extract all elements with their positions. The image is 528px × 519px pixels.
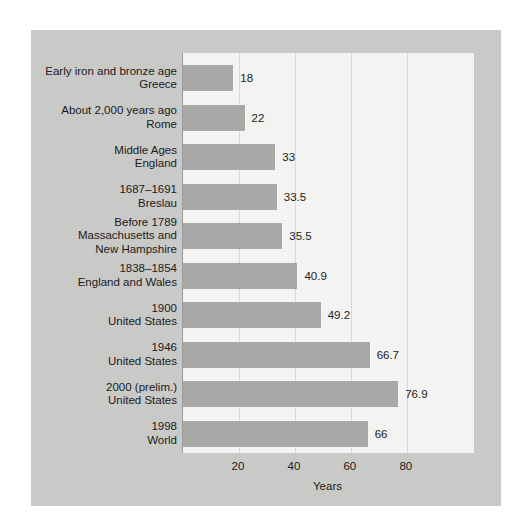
- category-label: 1838–1854England and Wales: [78, 262, 177, 289]
- category-label-line: United States: [108, 355, 177, 369]
- bar-value-label: 22: [252, 112, 265, 124]
- category-label: 1946United States: [108, 341, 177, 368]
- bar-value-label: 35.5: [289, 230, 311, 242]
- bar-value-label: 66.7: [377, 349, 399, 361]
- category-label-line: England: [114, 157, 177, 171]
- category-label: 2000 (prelim.)United States: [106, 381, 177, 408]
- x-tick-label: 20: [232, 460, 245, 472]
- bar[interactable]: [183, 223, 282, 249]
- category-label-line: Rome: [61, 118, 177, 132]
- bar-value-label: 66: [375, 428, 388, 440]
- bar-row: 33: [183, 144, 474, 170]
- bar[interactable]: [183, 342, 370, 368]
- bar-row: 76.9: [183, 381, 474, 407]
- x-tick-label: 80: [399, 460, 412, 472]
- bar[interactable]: [183, 144, 275, 170]
- category-label-line: 2000 (prelim.): [106, 381, 177, 395]
- category-label-line: Middle Ages: [114, 144, 177, 158]
- category-label-line: Early iron and bronze age: [45, 65, 177, 79]
- bar-value-label: 76.9: [405, 388, 427, 400]
- x-axis-title: Years: [182, 480, 473, 492]
- category-label-line: Before 1789: [78, 216, 177, 230]
- category-label: 1998World: [147, 420, 177, 447]
- figure-panel: 18223333.535.540.949.266.776.966 Years E…: [31, 30, 501, 506]
- bar-value-label: 33.5: [284, 191, 306, 203]
- bar[interactable]: [183, 302, 321, 328]
- category-label: Early iron and bronze ageGreece: [45, 65, 177, 92]
- bar-row: 18: [183, 65, 474, 91]
- category-label: About 2,000 years agoRome: [61, 104, 177, 131]
- category-label-line: United States: [106, 394, 177, 408]
- bar[interactable]: [183, 381, 398, 407]
- category-label-line: 1687–1691: [119, 183, 177, 197]
- bar[interactable]: [183, 105, 245, 131]
- bar-row: 49.2: [183, 302, 474, 328]
- category-label: 1687–1691Breslau: [119, 183, 177, 210]
- x-tick-label: 60: [343, 460, 356, 472]
- bar[interactable]: [183, 263, 297, 289]
- category-label-line: About 2,000 years ago: [61, 104, 177, 118]
- x-tick-label: 40: [288, 460, 301, 472]
- category-label-line: 1838–1854: [78, 262, 177, 276]
- bar[interactable]: [183, 184, 277, 210]
- category-label: 1900United States: [108, 302, 177, 329]
- bar-row: 35.5: [183, 223, 474, 249]
- category-label-line: 1998: [147, 420, 177, 434]
- bar-value-label: 40.9: [304, 270, 326, 282]
- category-label-line: Massachusetts and: [78, 229, 177, 243]
- plot-area: 18223333.535.540.949.266.776.966: [182, 53, 474, 453]
- bar-value-label: 18: [240, 72, 253, 84]
- bar-row: 66: [183, 421, 474, 447]
- category-label-line: World: [147, 434, 177, 448]
- bar-chart: 18223333.535.540.949.266.776.966 Years E…: [31, 30, 501, 506]
- category-label-line: England and Wales: [78, 276, 177, 290]
- bar-row: 40.9: [183, 263, 474, 289]
- bar-row: 22: [183, 105, 474, 131]
- category-label: Middle AgesEngland: [114, 144, 177, 171]
- bar-value-label: 33: [282, 151, 295, 163]
- bar[interactable]: [183, 65, 233, 91]
- category-label-line: Greece: [45, 78, 177, 92]
- category-label-line: United States: [108, 315, 177, 329]
- category-label: Before 1789Massachusetts andNew Hampshir…: [78, 216, 177, 257]
- category-label-line: New Hampshire: [78, 243, 177, 257]
- category-label-line: 1900: [108, 302, 177, 316]
- bar-row: 66.7: [183, 342, 474, 368]
- bar-value-label: 49.2: [328, 309, 350, 321]
- bar-row: 33.5: [183, 184, 474, 210]
- bar[interactable]: [183, 421, 368, 447]
- category-label-line: 1946: [108, 341, 177, 355]
- category-label-line: Breslau: [119, 197, 177, 211]
